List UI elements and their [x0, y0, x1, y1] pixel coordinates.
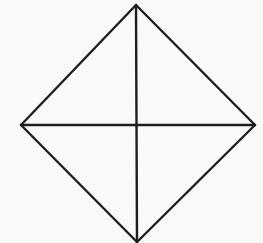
rhombus-diagram — [0, 0, 263, 243]
diagram-segments — [21, 5, 255, 242]
right-bottom-edge — [137, 125, 255, 242]
left-top-edge — [21, 5, 136, 125]
bottom-left-edge — [21, 125, 137, 242]
vertical-diagonal — [136, 5, 137, 242]
top-right-edge — [136, 5, 255, 125]
